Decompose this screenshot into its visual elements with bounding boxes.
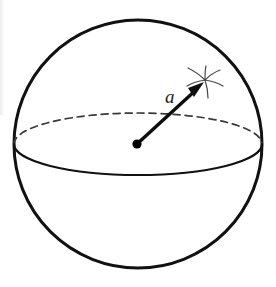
starburst-ray-up-left bbox=[188, 68, 205, 80]
equator-near-solid-arc bbox=[14, 144, 262, 175]
radius-label-text: a bbox=[165, 86, 175, 107]
starburst-ray-right bbox=[205, 80, 223, 86]
starburst-ray-down-right bbox=[205, 80, 208, 98]
sphere-diagram-figure: Sphere with radius vector Line drawing o… bbox=[0, 0, 276, 287]
starburst-ray-up bbox=[205, 66, 206, 80]
equator-far-dashed-arc bbox=[14, 113, 262, 144]
starburst-ray-up-right bbox=[205, 70, 220, 80]
center-point-dot bbox=[132, 139, 141, 148]
sphere-diagram-canvas: Sphere with radius vector Line drawing o… bbox=[0, 0, 276, 287]
